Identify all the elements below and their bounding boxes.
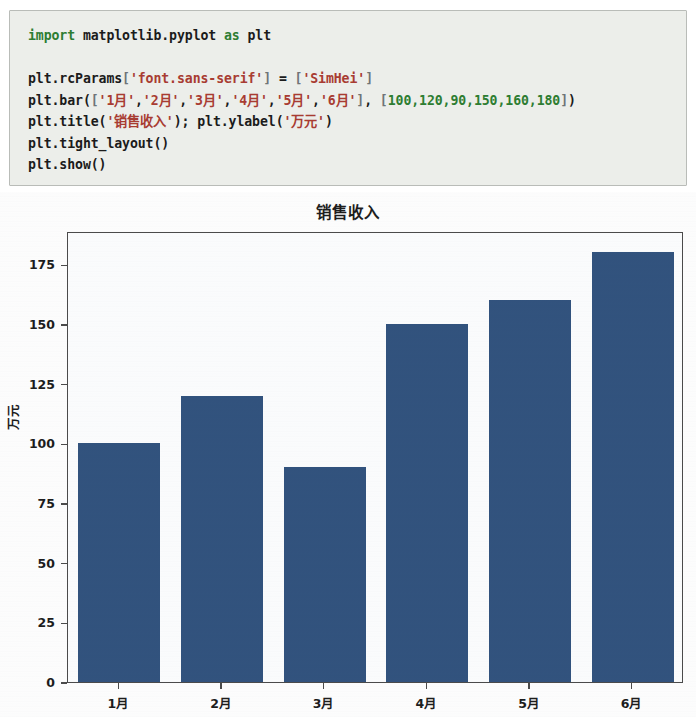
bar-4月 (386, 324, 468, 682)
x-tick-label: 1月 (67, 693, 170, 712)
y-tick-label: 50 (38, 556, 55, 571)
bar-1月 (78, 443, 160, 682)
code-token-pl: plt (240, 28, 271, 43)
code-token-pl: ) (325, 114, 333, 129)
x-tick-mark (323, 683, 324, 689)
plot-area (67, 232, 683, 683)
code-token-pun: ] (560, 93, 568, 108)
code-token-kw: as (224, 28, 240, 43)
code-token-pl: () (91, 157, 107, 172)
x-tick-6月: 6月 (580, 683, 683, 711)
code-token-str: '万元' (283, 114, 324, 129)
code-listing: import matplotlib.pyplot as plt plt.rcPa… (28, 25, 686, 176)
x-tick-mark (220, 683, 221, 689)
x-tick-5月: 5月 (478, 683, 581, 711)
x-tick-mark (426, 683, 427, 689)
code-token-pl: plt.title (28, 114, 99, 129)
x-tick-4月: 4月 (375, 683, 478, 711)
code-block: import matplotlib.pyplot as plt plt.rcPa… (9, 10, 687, 186)
code-line: plt.show() (28, 154, 686, 176)
y-tick-label: 75 (38, 496, 55, 511)
code-token-str: '1月' (99, 93, 135, 108)
bar-6月 (592, 252, 674, 682)
code-line: import matplotlib.pyplot as plt (28, 25, 686, 47)
code-token-pl: plt.show (28, 157, 91, 172)
code-token-pl: , (364, 93, 380, 108)
code-token-str: '6月' (320, 93, 356, 108)
code-line (28, 47, 686, 69)
y-tick-label: 25 (38, 615, 55, 630)
code-token-pun: ] (356, 93, 364, 108)
y-axis-label: 万元 (3, 387, 22, 447)
code-token-pun: ] (365, 71, 373, 86)
code-line: plt.tight_layout() (28, 133, 686, 155)
code-token-pun: ] (263, 71, 271, 86)
code-token-pl: plt.tight_layout (28, 136, 153, 151)
code-token-pl: plt.bar (28, 93, 83, 108)
matplotlib-figure: 销售收入 万元 0255075100125150175 1月2月3月4月5月6月 (0, 192, 696, 717)
y-tick-label: 125 (29, 377, 55, 392)
y-tick-label: 100 (29, 436, 55, 451)
x-tick-mark (528, 683, 529, 689)
code-token-pl: ( (83, 93, 91, 108)
code-token-pl: plt.rcParams (28, 71, 122, 86)
code-token-pl: , (135, 93, 143, 108)
code-token-str: '3月' (187, 93, 223, 108)
code-token-pl: () (153, 136, 169, 151)
bars-layer (68, 233, 682, 682)
code-token-pl: ); (174, 114, 198, 129)
code-token-pl: , (312, 93, 320, 108)
bar-5月 (489, 300, 571, 682)
code-line: plt.rcParams['font.sans-serif'] = ['SimH… (28, 68, 686, 90)
x-tick-mark (631, 683, 632, 689)
code-token-pl: = (271, 71, 295, 86)
y-tick-label: 175 (29, 257, 55, 272)
code-token-str: '销售收入' (106, 114, 173, 129)
code-token-str: '5月' (276, 93, 312, 108)
code-token-pl: matplotlib.pyplot (75, 28, 224, 43)
code-token-pl: ) (568, 93, 576, 108)
code-token-kw: import (28, 28, 75, 43)
x-tick-label: 3月 (272, 693, 375, 712)
bar-3月 (284, 467, 366, 682)
code-token-pl: , (179, 93, 187, 108)
y-tick-label: 150 (29, 317, 55, 332)
code-token-pun: [ (122, 71, 130, 86)
x-tick-3月: 3月 (272, 683, 375, 711)
bar-2月 (181, 396, 263, 682)
x-tick-label: 5月 (478, 693, 581, 712)
x-tick-label: 6月 (580, 693, 683, 712)
x-tick-mark (118, 683, 119, 689)
x-tick-label: 4月 (375, 693, 478, 712)
x-tick-label: 2月 (170, 693, 273, 712)
chart-title: 销售收入 (0, 200, 696, 222)
x-tick-2月: 2月 (170, 683, 273, 711)
code-token-pun: [ (380, 93, 388, 108)
y-tick-label: 0 (46, 675, 55, 690)
code-token-pl: plt.ylabel (197, 114, 275, 129)
code-token-pun: [ (91, 93, 99, 108)
code-line: plt.title('销售收入'); plt.ylabel('万元') (28, 111, 686, 133)
x-tick-1月: 1月 (67, 683, 170, 711)
code-token-str: '2月' (143, 93, 179, 108)
code-token-str: 'SimHei' (302, 71, 365, 86)
code-token-num: 100,120,90,150,160,180 (388, 93, 560, 108)
code-token-str: '4月' (231, 93, 267, 108)
code-token-pl: , (268, 93, 276, 108)
code-token-str: 'font.sans-serif' (130, 71, 263, 86)
code-line: plt.bar(['1月','2月','3月','4月','5月','6月'],… (28, 90, 686, 112)
